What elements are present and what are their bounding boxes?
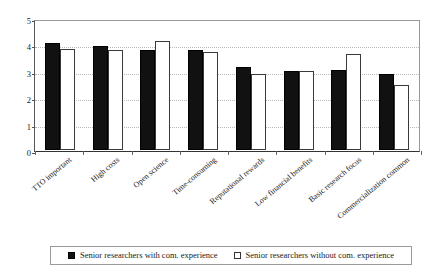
bar-group [370,21,418,150]
bar [93,46,108,150]
bar [45,43,60,150]
x-axis-tick-mark [132,151,133,155]
bar [108,50,123,150]
legend-label: Senior researchers without com. experien… [246,251,394,260]
bar-group [275,21,323,150]
bar-group [323,21,371,150]
y-axis-tick-label: 1 [27,122,31,131]
legend-swatch-filled-icon [68,252,75,259]
x-axis-tick-mark [180,151,181,155]
y-axis-tick-mark [32,127,35,128]
bar-group [36,21,84,150]
y-axis-tick-mark [32,100,35,101]
bar [379,74,394,150]
bar-group [132,21,180,150]
bar [60,49,75,150]
y-axis-tick-mark [32,74,35,75]
bar [203,52,218,150]
legend-entry: Senior researchers with com. experience [68,251,218,260]
legend-entry: Senior researchers without com. experien… [234,251,394,260]
x-axis-tick-mark [421,151,422,155]
x-axis-tick-mark [35,151,36,155]
plot-area: 012345 [34,20,420,152]
x-axis-label: Open science [132,156,170,190]
x-axis-label: Time-consuming [171,156,218,197]
bar-group [227,21,275,150]
x-axis-label: TTO important [31,156,74,194]
y-axis-tick-label: 2 [27,96,31,105]
x-axis-labels: TTO importantHigh costsOpen scienceTime-… [34,156,420,218]
bar [236,67,251,150]
legend-swatch-open-icon [234,252,241,259]
bar [188,50,203,150]
bar [251,74,266,150]
y-axis-tick-mark [32,21,35,22]
bar [394,85,409,150]
chart-legend: Senior researchers with com. experienceS… [50,246,412,265]
bar [299,71,314,150]
x-axis-tick-mark [228,151,229,155]
x-axis-label: High costs [90,156,121,184]
legend-label: Senior researchers with com. experience [80,251,218,260]
bar [140,50,155,150]
bar-group [84,21,132,150]
bar [284,71,299,150]
bar-group [179,21,227,150]
x-axis-tick-mark [83,151,84,155]
bar [331,70,346,150]
x-axis-tick-mark [276,151,277,155]
y-axis-tick-label: 5 [27,17,31,26]
bar-groups [36,21,418,150]
bar [155,41,170,150]
y-axis-tick-label: 4 [27,43,31,52]
y-axis-tick-label: 0 [27,149,31,158]
bar [346,54,361,150]
bar-chart-figure: 012345 TTO importantHigh costsOpen scien… [0,0,437,279]
x-axis-tick-mark [325,151,326,155]
y-axis-tick-mark [32,47,35,48]
x-axis-tick-mark [373,151,374,155]
y-axis-tick-label: 3 [27,70,31,79]
